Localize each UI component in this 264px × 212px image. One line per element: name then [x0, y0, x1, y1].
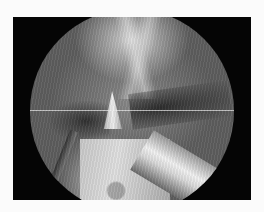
endoscope-field-of-view	[30, 17, 234, 200]
video-scanline-artifact	[30, 110, 234, 111]
left-dark-tissue-region	[50, 101, 110, 141]
upper-bright-tissue	[90, 17, 180, 99]
image-frame	[13, 17, 251, 200]
